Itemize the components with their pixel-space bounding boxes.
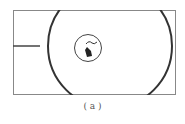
hand-cursor-icon (85, 42, 97, 57)
frame (14, 11, 176, 95)
large-circle (48, 0, 172, 108)
figure-caption: ( a ) (0, 101, 185, 111)
